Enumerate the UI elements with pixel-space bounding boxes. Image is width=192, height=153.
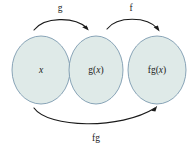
arrow-head-f — [154, 26, 160, 32]
function-composition-diagram: x g(x) fg(x) g f fg — [0, 0, 192, 153]
arrow-label-fg: fg — [92, 133, 100, 143]
set-label-domain: x — [38, 65, 44, 75]
set-label-codomain-prefix: fg( — [148, 65, 159, 76]
diagram-canvas: x g(x) fg(x) g f fg — [0, 0, 192, 153]
arrow-label-g: g — [58, 3, 63, 13]
set-label-intermediate: g(x) — [88, 65, 103, 76]
arrow-head-g — [82, 25, 89, 30]
arrow-label-f: f — [129, 3, 133, 13]
set-label-domain-text: x — [38, 65, 44, 75]
set-label-codomain-suffix: ) — [163, 65, 166, 76]
set-label-codomain: fg(x) — [148, 65, 166, 76]
arrow-path-f — [107, 19, 158, 29]
arrow-head-fg — [151, 106, 157, 112]
arrow-path-g — [34, 20, 87, 30]
set-label-intermediate-prefix: g( — [88, 65, 96, 76]
set-label-intermediate-suffix: ) — [100, 65, 103, 76]
arrow-path-fg — [34, 108, 155, 124]
